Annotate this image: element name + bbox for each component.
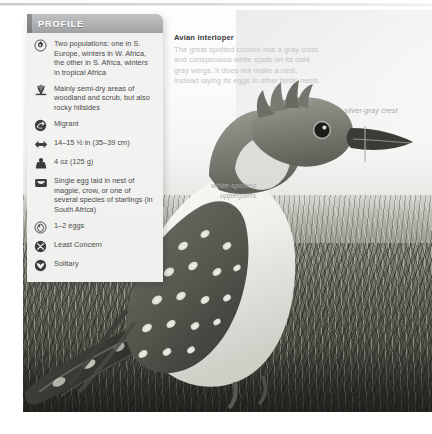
- profile-row-eggs: 1–2 eggs: [33, 221, 155, 234]
- upperparts-label-line1: white-spotted: [211, 181, 256, 191]
- profile-row-migration-text: Migrant: [54, 119, 79, 129]
- profile-panel: PROFILE Two populations: one in S. Europ…: [27, 14, 163, 282]
- conservation-status-icon: [33, 241, 48, 253]
- crest-label: silver-gray crest: [344, 106, 398, 116]
- profile-row-habitat: Mainly semi-dry areas of woodland and sc…: [33, 84, 155, 113]
- caption-title: Avian interloper: [174, 33, 324, 42]
- profile-panel-title: PROFILE: [38, 19, 84, 29]
- page-bottom-margin: [0, 412, 432, 434]
- length-arrows-icon: [33, 139, 48, 151]
- profile-row-length: 14–15 ½ in (35–39 cm): [33, 138, 155, 151]
- profile-panel-body: Two populations: one in S. Europe, winte…: [27, 33, 163, 282]
- nest-icon: [33, 177, 48, 189]
- habitat-grass-icon: [33, 84, 48, 96]
- upperparts-label: white-spotted upperparts: [211, 181, 256, 201]
- page-root: silver-gray crest white-spotted upperpar…: [0, 0, 432, 434]
- profile-row-eggs-text: 1–2 eggs: [54, 221, 84, 231]
- profile-row-nest: Single egg laid in nest of magpie, crow,…: [33, 176, 155, 214]
- profile-row-social: Solitary: [33, 259, 155, 272]
- weight-icon: [33, 158, 48, 170]
- caption-block: Avian interloper The great spotted cucko…: [174, 33, 324, 86]
- profile-row-weight-text: 4 oz (125 g): [54, 157, 93, 167]
- top-divider-rule-shadow: [0, 5, 432, 6]
- header-accent-bar: [27, 14, 32, 33]
- distribution-icon: [33, 40, 48, 52]
- profile-row-distribution: Two populations: one in S. Europe, winte…: [33, 39, 155, 77]
- social-solitary-icon: [33, 260, 48, 272]
- profile-row-habitat-text: Mainly semi-dry areas of woodland and sc…: [54, 84, 155, 113]
- profile-row-migration: Migrant: [33, 119, 155, 132]
- profile-row-weight: 4 oz (125 g): [33, 157, 155, 170]
- profile-row-social-text: Solitary: [54, 259, 79, 269]
- profile-row-distribution-text: Two populations: one in S. Europe, winte…: [54, 39, 155, 77]
- profile-row-conservation: Least Concern: [33, 240, 155, 253]
- profile-row-length-text: 14–15 ½ in (35–39 cm): [54, 138, 130, 148]
- caption-body: The great spotted cuckoo has a gray cres…: [174, 45, 324, 86]
- profile-panel-header: PROFILE: [27, 14, 163, 33]
- egg-icon: [33, 222, 48, 234]
- profile-row-nest-text: Single egg laid in nest of magpie, crow,…: [54, 176, 155, 214]
- migration-icon: [33, 120, 48, 132]
- profile-row-conservation-text: Least Concern: [54, 240, 102, 250]
- upperparts-label-line2: upperparts: [211, 191, 256, 201]
